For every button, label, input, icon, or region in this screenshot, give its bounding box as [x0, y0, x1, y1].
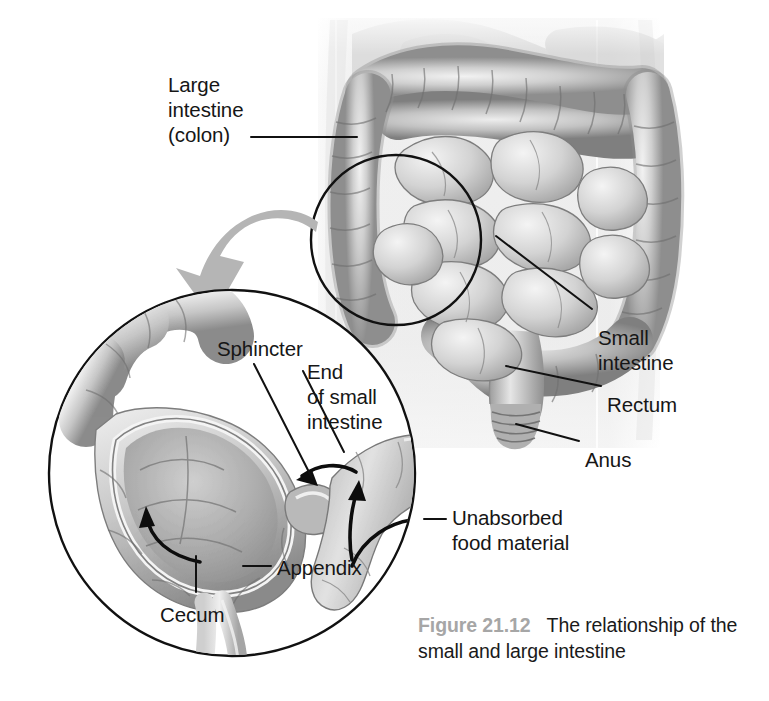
label-rectum: Rectum — [607, 392, 677, 417]
figure-caption: Figure 21.12 The relationship of the sma… — [418, 612, 763, 664]
label-appendix: Appendix — [277, 555, 362, 580]
figure-21-12: Largeintestine(colon) Smallintestine Rec… — [0, 0, 769, 701]
label-large-intestine: Largeintestine(colon) — [168, 72, 243, 147]
label-small-intestine: Smallintestine — [598, 325, 673, 375]
transverse-colon — [372, 69, 650, 137]
label-cecum: Cecum — [160, 602, 224, 627]
label-anus: Anus — [585, 447, 631, 472]
label-unabsorbed-food-material: Unabsorbedfood material — [452, 505, 569, 555]
ascending-colon — [354, 96, 372, 322]
label-end-of-small-intestine: Endof smallintestine — [307, 359, 382, 434]
figure-number: Figure 21.12 — [418, 614, 531, 636]
label-sphincter: Sphincter — [217, 336, 303, 361]
